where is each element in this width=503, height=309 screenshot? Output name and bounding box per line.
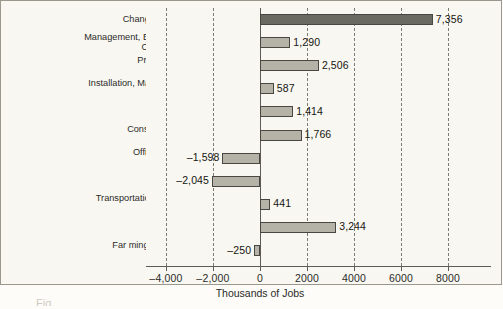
bar-value-label: –1,598	[187, 151, 220, 163]
x-tick-mark	[166, 266, 167, 271]
bar-value-label: 7,356	[436, 13, 463, 25]
bar-value-label: –250	[227, 244, 251, 256]
bar	[260, 106, 293, 117]
figure-caption: Fig.	[36, 298, 54, 306]
gridline	[213, 8, 214, 266]
x-tick-mark	[401, 266, 402, 271]
bar	[254, 245, 260, 256]
bar	[260, 83, 274, 94]
x-tick-label: 6000	[389, 272, 413, 284]
x-axis-line	[146, 266, 491, 267]
bar-value-label: 441	[273, 197, 291, 209]
x-tick-mark	[260, 266, 261, 271]
x-tick-label: 0	[257, 272, 263, 284]
gridline	[166, 8, 167, 266]
bar-value-label: 587	[277, 82, 295, 94]
x-tick-label: 8000	[436, 272, 460, 284]
bar-value-label: 3,244	[339, 220, 366, 232]
x-tick-mark	[448, 266, 449, 271]
x-tick-mark	[354, 266, 355, 271]
figure-container: Change in Total EmploymentManagement, Bu…	[0, 0, 503, 309]
x-tick-label: 4000	[342, 272, 366, 284]
bar	[260, 60, 319, 71]
bar	[222, 153, 260, 164]
bar	[260, 37, 290, 48]
bar	[260, 222, 336, 233]
gridline	[401, 8, 402, 266]
bar-value-label: –2,045	[176, 174, 209, 186]
bar	[212, 176, 260, 187]
bar-value-label: 2,506	[322, 59, 349, 71]
bar-value-label: 1,290	[293, 36, 320, 48]
x-tick-mark	[307, 266, 308, 271]
x-tick-mark	[213, 266, 214, 271]
x-tick-label: –4,000	[149, 272, 182, 284]
bar-value-label: 1,414	[296, 105, 323, 117]
bar	[260, 14, 433, 25]
x-tick-label: –2,000	[196, 272, 229, 284]
gridline	[448, 8, 449, 266]
bar-value-label: 1,766	[305, 128, 332, 140]
bar	[260, 199, 270, 210]
bar	[260, 130, 302, 141]
x-tick-label: 2000	[295, 272, 319, 284]
x-axis-title: Thousands of Jobs	[216, 287, 305, 299]
